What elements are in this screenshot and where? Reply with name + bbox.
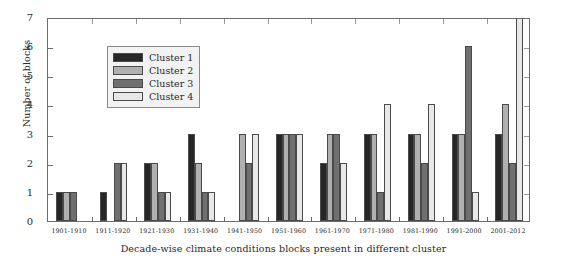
bar-group [320,19,347,221]
y-tick-mark-right [524,77,529,78]
x-tick-label: 1931-1940 [179,227,223,234]
bar [100,192,107,221]
x-tick-mark-bottom [399,217,400,221]
x-tick-mark-bottom [224,217,225,221]
bar [495,134,502,221]
bar [195,163,202,221]
bar [188,134,195,221]
bar [408,134,415,221]
y-tick-label: 3 [7,130,33,140]
bar [320,163,327,221]
legend-item: Cluster 3 [113,77,193,90]
x-tick-label: 1921-1930 [135,227,179,234]
bar-group [408,19,435,221]
x-tick-mark-top [399,19,400,24]
bar [114,163,121,221]
bar [151,163,158,221]
y-tick-mark [48,77,53,78]
y-tick-label: 5 [7,71,33,81]
x-tick-mark-bottom [487,217,488,221]
y-tick-mark [48,165,53,166]
y-tick-label: 2 [7,159,33,169]
y-tick-mark-right [524,136,529,137]
x-tick-label: 1941-1950 [223,227,267,234]
x-tick-mark-bottom [443,217,444,221]
bar [340,163,347,221]
x-tick-mark-top [487,19,488,24]
bar [327,134,334,221]
y-tick-mark [48,106,53,107]
y-tick-mark-right [524,48,529,49]
x-tick-mark-top [224,19,225,24]
bar [165,192,172,221]
bar [333,134,340,221]
x-tick-mark-bottom [355,217,356,221]
y-tick-mark-right [524,106,529,107]
legend: Cluster 1 Cluster 2 Cluster 3 Cluster 4 [107,46,200,108]
x-tick-label: 1961-1970 [310,227,354,234]
x-tick-label: 1901-1910 [47,227,91,234]
bar [384,104,391,221]
bar [246,163,253,221]
y-tick-label: 6 [7,42,33,52]
bar-group [495,19,522,221]
bar [202,192,209,221]
bar [56,192,63,221]
bar-group [452,19,479,221]
x-tick-mark-bottom [136,217,137,221]
legend-label-cluster-2: Cluster 2 [149,66,193,76]
bar [70,192,77,221]
legend-label-cluster-1: Cluster 1 [149,53,193,63]
bar [158,192,165,221]
y-tick-mark [48,194,53,195]
bar [121,163,128,221]
bar [516,18,523,221]
y-tick-mark-right [524,194,529,195]
x-tick-mark-bottom [180,217,181,221]
bar-chart-figure: Number of blocks 01234567 Cluster 1 Clus… [0,0,567,263]
bar [452,134,459,221]
x-tick-label: 1981-1990 [398,227,442,234]
bar [144,163,151,221]
bar [414,134,421,221]
legend-item: Cluster 4 [113,90,193,103]
bar [428,104,435,221]
bar [296,134,303,221]
bar [509,163,516,221]
x-tick-mark-top [268,19,269,24]
bar [283,134,290,221]
bar-group [232,19,259,221]
x-tick-mark-top [92,19,93,24]
legend-label-cluster-4: Cluster 4 [149,92,193,102]
x-tick-label: 1951-1960 [267,227,311,234]
y-tick-mark [48,48,53,49]
bar [371,134,378,221]
bar [364,134,371,221]
bar [252,134,259,221]
y-tick-label: 0 [7,217,33,227]
bar [208,192,215,221]
bar [239,134,246,221]
y-tick-label: 4 [7,100,33,110]
legend-swatch-cluster-1 [113,53,143,62]
bar-group [364,19,391,221]
legend-label-cluster-3: Cluster 3 [149,79,193,89]
x-tick-mark-bottom [311,217,312,221]
x-tick-label: 1991-2000 [442,227,486,234]
x-tick-label: 1911-1920 [91,227,135,234]
x-tick-mark-top [136,19,137,24]
bar [289,134,296,221]
x-tick-mark-top [180,19,181,24]
legend-swatch-cluster-4 [113,92,143,101]
plot-area: Cluster 1 Cluster 2 Cluster 3 Cluster 4 [47,18,530,222]
x-axis-title: Decade-wise climate conditions blocks pr… [0,243,567,254]
x-tick-label: 1971-1980 [354,227,398,234]
x-tick-mark-top [311,19,312,24]
bar [63,192,70,221]
y-tick-label: 1 [7,188,33,198]
bar [421,163,428,221]
bar [465,46,472,221]
legend-swatch-cluster-3 [113,79,143,88]
x-tick-mark-bottom [92,217,93,221]
legend-item: Cluster 2 [113,64,193,77]
